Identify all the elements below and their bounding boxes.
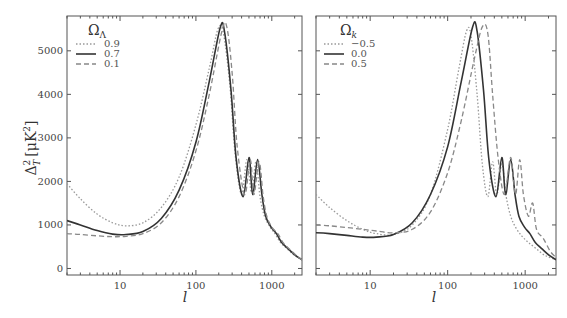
left-y-ticks: 010002000300040005000 — [38, 45, 302, 274]
left-curves — [67, 22, 302, 260]
left-legend-item-3: 0.1 — [104, 58, 120, 69]
figure: 010002000300040005000 101001000 Δ2T[μK2]… — [0, 0, 567, 318]
right-panel: 101001000 l Ωk −0.5 0.0 0.5 — [316, 16, 556, 305]
y-tick-label: 5000 — [38, 45, 63, 56]
y-tick-label: 3000 — [38, 132, 63, 143]
x-tick-label: 10 — [364, 280, 377, 291]
y-tick-label: 0 — [57, 263, 63, 274]
y-axis-label: Δ2T[μK2] — [22, 120, 42, 175]
left-x-axis-label: l — [183, 289, 187, 305]
curve-solid — [67, 23, 302, 260]
x-tick-label: 100 — [438, 280, 457, 291]
y-tick-label: 4000 — [38, 89, 63, 100]
left-panel: 010002000300040005000 101001000 Δ2T[μK2]… — [22, 16, 302, 305]
right-x-axis-label: l — [432, 289, 436, 305]
y-tick-label: 2000 — [38, 176, 63, 187]
x-tick-label: 1000 — [512, 280, 537, 291]
curve-dotted — [67, 25, 302, 259]
curve-dashed — [67, 22, 302, 260]
x-tick-label: 1000 — [259, 280, 284, 291]
x-tick-label: 10 — [114, 280, 127, 291]
x-tick-label: 100 — [186, 280, 205, 291]
left-legend: ΩΛ 0.9 0.7 0.1 — [76, 22, 120, 69]
y-tick-label: 1000 — [38, 219, 63, 230]
right-legend-item-3: 0.5 — [351, 58, 367, 69]
left-x-ticks: 101001000 — [67, 16, 295, 291]
right-legend: Ωk −0.5 0.0 0.5 — [324, 22, 375, 69]
